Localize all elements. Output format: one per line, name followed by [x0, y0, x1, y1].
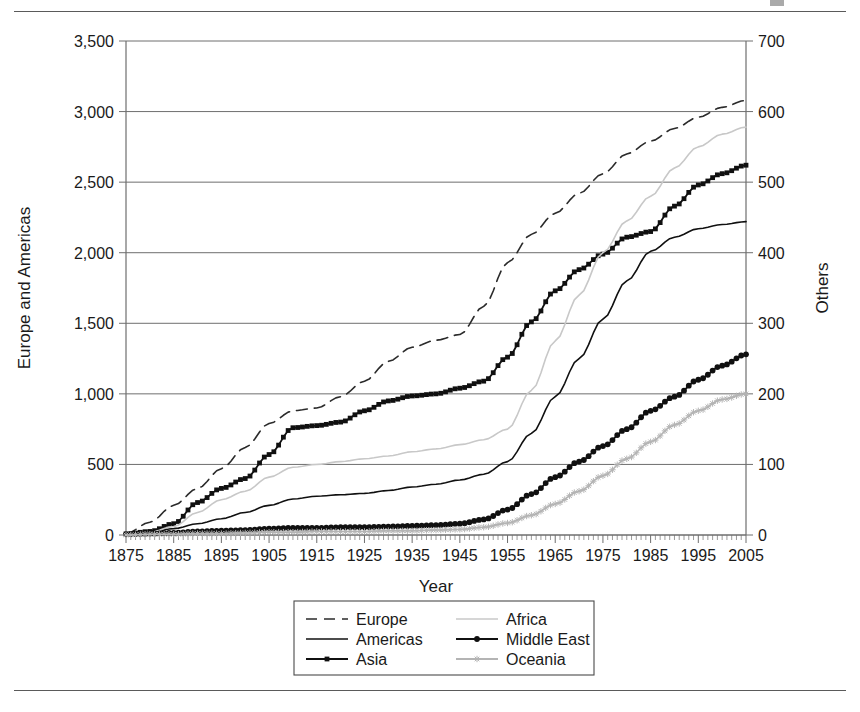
- series-marker-square: [224, 485, 229, 490]
- series-marker-square: [415, 393, 420, 398]
- chart-legend: EuropeAfricaAmericasMiddle EastAsiaOcean…: [294, 601, 594, 675]
- series-marker-star: [743, 391, 749, 397]
- series-marker-circle: [657, 403, 663, 409]
- series-marker-square: [496, 363, 501, 368]
- x-tick-label: 1925: [347, 547, 383, 564]
- series-line: [126, 354, 746, 534]
- series-marker-square: [324, 422, 329, 427]
- series-marker-star: [590, 478, 596, 484]
- series-marker-star: [709, 400, 715, 406]
- series-marker-square: [505, 355, 510, 360]
- series-marker-square: [372, 405, 377, 410]
- series-marker-square: [276, 443, 281, 448]
- series-marker-square: [734, 166, 739, 171]
- top-rule: [14, 11, 846, 12]
- series-marker-square: [553, 288, 558, 293]
- series-marker-square: [343, 419, 348, 424]
- series-marker-star: [557, 499, 563, 505]
- series-marker-circle: [652, 406, 658, 412]
- series-marker-circle: [519, 497, 525, 503]
- series-marker-star: [485, 524, 491, 530]
- series-marker-star: [504, 520, 510, 526]
- y-tick-label-right: 0: [758, 527, 767, 544]
- series-marker-square: [577, 267, 582, 272]
- series-marker-square: [715, 172, 720, 177]
- series-marker-square: [581, 266, 586, 271]
- series-marker-square: [705, 179, 710, 184]
- series-marker-star: [466, 525, 472, 531]
- series-marker-square: [519, 332, 524, 337]
- series-marker-star: [657, 433, 663, 439]
- series-marker-square: [325, 657, 330, 662]
- series-marker-circle: [705, 372, 711, 378]
- series-marker-square: [643, 230, 648, 235]
- series-marker-square: [567, 275, 572, 280]
- series-marker-square: [319, 423, 324, 428]
- series-marker-star: [585, 483, 591, 489]
- series-marker-star: [690, 409, 696, 415]
- series-marker-star: [523, 513, 529, 519]
- series-marker-circle: [633, 420, 639, 426]
- series-marker-star: [474, 656, 480, 662]
- y-tick-label-right: 600: [758, 104, 785, 121]
- series-marker-square: [305, 424, 310, 429]
- series-marker-square: [381, 400, 386, 405]
- series-marker-square: [562, 281, 567, 286]
- y-tick-label-left: 3,500: [74, 33, 114, 50]
- series-marker-star: [562, 496, 568, 502]
- series-marker-square: [200, 499, 205, 504]
- series-marker-square: [257, 461, 262, 466]
- series-marker-square: [195, 500, 200, 505]
- legend-label: Africa: [506, 611, 547, 628]
- series-marker-square: [419, 393, 424, 398]
- series-marker-square: [434, 391, 439, 396]
- series-marker-square: [586, 262, 591, 267]
- series-marker-square: [338, 420, 343, 425]
- x-axis-title: Year: [419, 577, 454, 596]
- series-marker-square: [539, 309, 544, 314]
- y-tick-label-left: 500: [87, 456, 114, 473]
- series-marker-circle: [474, 636, 480, 642]
- series-marker-square: [667, 206, 672, 211]
- series-middle-east: [123, 351, 749, 537]
- series-marker-square: [391, 398, 396, 403]
- series-marker-square: [558, 286, 563, 291]
- series-marker-circle: [471, 518, 477, 524]
- legend-label: Middle East: [506, 631, 590, 648]
- series-marker-star: [714, 397, 720, 403]
- series-marker-circle: [610, 437, 616, 443]
- series-marker-circle: [590, 449, 596, 455]
- series-marker-square: [262, 455, 267, 460]
- series-marker-circle: [581, 457, 587, 463]
- series-asia: [124, 163, 749, 536]
- series-marker-circle: [605, 441, 611, 447]
- y-tick-label-right: 400: [758, 245, 785, 262]
- series-marker-square: [658, 220, 663, 225]
- series-marker-star: [490, 523, 496, 529]
- series-marker-square: [710, 175, 715, 180]
- series-marker-star: [495, 521, 501, 527]
- series-marker-square: [524, 323, 529, 328]
- plot-frame: [126, 41, 746, 535]
- series-marker-square: [677, 202, 682, 207]
- x-tick-label: 1955: [490, 547, 526, 564]
- series-marker-square: [367, 407, 372, 412]
- series-marker-star: [571, 489, 577, 495]
- series-marker-star: [461, 526, 467, 532]
- y-tick-label-right: 300: [758, 315, 785, 332]
- series-marker-circle: [509, 505, 515, 511]
- series-marker-star: [676, 420, 682, 426]
- y-tick-label-right: 700: [758, 33, 785, 50]
- line-chart: 05001,0001,5002,0002,5003,0003,500010020…: [0, 14, 860, 684]
- series-marker-square: [181, 514, 186, 519]
- series-marker-square: [205, 495, 210, 500]
- series-marker-circle: [500, 508, 506, 514]
- series-marker-circle: [533, 489, 539, 495]
- series-marker-square: [453, 386, 458, 391]
- page-corner-mark: [770, 0, 784, 6]
- series-marker-square: [376, 402, 381, 407]
- series-marker-star: [700, 406, 706, 412]
- series-marker-star: [724, 396, 730, 402]
- series-marker-star: [538, 508, 544, 514]
- series-marker-square: [186, 508, 191, 513]
